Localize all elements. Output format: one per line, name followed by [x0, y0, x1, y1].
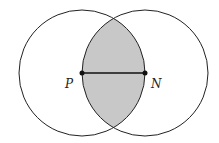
- label-n: N: [150, 77, 162, 91]
- label-p: P: [64, 77, 74, 91]
- venn-diagram: P N: [0, 0, 219, 143]
- point-n: [143, 71, 148, 76]
- point-p: [80, 71, 85, 76]
